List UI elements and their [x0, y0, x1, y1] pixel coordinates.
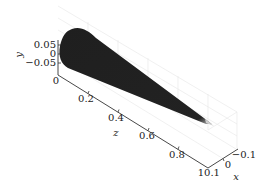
z-axis-label: z: [112, 127, 119, 138]
y-axis-label: y: [13, 52, 24, 59]
cone-surface: [59, 28, 214, 126]
x-axis-label: x: [233, 171, 239, 182]
x-tick-label: −0.1: [232, 149, 256, 160]
x-tick-label: 0: [225, 159, 231, 170]
z-tick-label: 0.4: [108, 112, 124, 123]
x-axis: 0.1 0 −0.1 x: [204, 149, 256, 182]
z-tick-label: 0.2: [78, 93, 94, 104]
z-tick-label: 0: [53, 75, 59, 86]
y-tick-label: −0.05: [25, 57, 56, 68]
cone-3d-plot: 0.05 0 −0.05 y 0 0.2 0.4 0.6 0.8 1 z 0.1…: [0, 0, 268, 196]
z-tick-label: 0.6: [139, 130, 155, 141]
x-tick-label: 0.1: [204, 167, 220, 178]
z-tick-label: 0.8: [169, 149, 185, 160]
y-axis: 0.05 0 −0.05 y: [13, 39, 61, 75]
